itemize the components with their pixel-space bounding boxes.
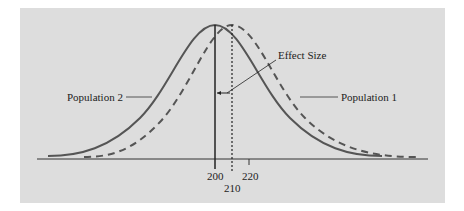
- tick-label-220: 220: [242, 170, 259, 182]
- effect-size-diagram: Population 2 Population 1 Effect Size 20…: [0, 0, 464, 211]
- tick-label-200: 200: [207, 170, 224, 182]
- population-1-label: Population 1: [341, 91, 397, 103]
- population-2-label: Population 2: [67, 91, 123, 103]
- tick-label-210: 210: [224, 182, 241, 194]
- effect-size-label: Effect Size: [278, 49, 326, 61]
